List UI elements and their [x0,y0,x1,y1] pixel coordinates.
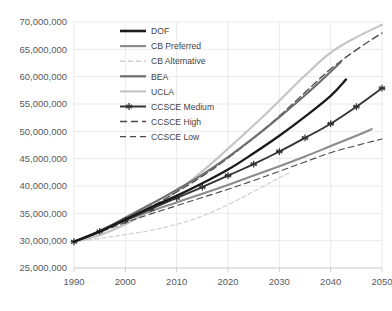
series-line [74,129,372,242]
y-axis-tick-label: 30,000,000 [19,235,67,246]
axes-group [74,268,382,272]
x-axis-tick-label: 2030 [269,276,290,287]
legend-item-dof[interactable]: DOF [120,26,169,36]
y-axis-tick-label: 70,000,000 [19,16,67,27]
legend-label: DOF [151,26,169,36]
legend-item-bea[interactable]: BEA [120,72,168,82]
legend-item-ucla[interactable]: UCLA [120,87,174,97]
legend-item-ccsce-high[interactable]: CCSCE High [120,117,201,127]
x-axis-tick-label: 2000 [115,276,136,287]
x-axis-tick-label: 2010 [166,276,187,287]
y-axis-tick-label: 40,000,000 [19,180,67,191]
series-bea [74,62,341,242]
y-axis-tick-label: 60,000,000 [19,71,67,82]
legend-label: CCSCE Medium [151,102,214,112]
y-axis-tick-label: 45,000,000 [19,153,67,164]
y-axis-tick-label: 65,000,000 [19,44,67,55]
legend-label: BEA [151,72,168,82]
legend-item-ccsce-low[interactable]: CCSCE Low [120,132,200,142]
y-axis-tick-labels: 25,000,00030,000,00035,000,00040,000,000… [19,16,67,273]
chart-legend: DOFCB PreferredCB AlternativeBEAUCLACCSC… [120,26,214,142]
legend-label: CCSCE High [151,117,201,127]
series-line [74,173,290,242]
chart-canvas: 25,000,00030,000,00035,000,00040,000,000… [0,0,392,311]
y-axis-tick-label: 35,000,000 [19,208,67,219]
legend-label: UCLA [151,87,174,97]
series-line [74,62,341,242]
legend-label: CB Alternative [151,56,206,66]
legend-label: CCSCE Low [151,132,200,142]
series-cb-preferred [74,129,372,242]
population-projection-chart: 25,000,00030,000,00035,000,00040,000,000… [0,0,392,311]
series-cb-alternative [74,173,290,242]
legend-label: CB Preferred [151,41,201,51]
y-axis-tick-label: 25,000,000 [19,262,67,273]
x-axis-tick-label: 2040 [320,276,341,287]
x-axis-tick-label: 2020 [217,276,238,287]
legend-item-ccsce-medium[interactable]: CCSCE Medium [120,102,214,112]
y-axis-tick-label: 50,000,000 [19,126,67,137]
x-axis-tick-label: 2050 [371,276,392,287]
x-axis-tick-label: 1990 [63,276,84,287]
legend-item-cb-alternative[interactable]: CB Alternative [120,56,206,66]
legend-item-cb-preferred[interactable]: CB Preferred [120,41,201,51]
y-axis-tick-label: 55,000,000 [19,98,67,109]
x-axis-tick-labels: 1990200020102020203020402050 [63,276,392,287]
